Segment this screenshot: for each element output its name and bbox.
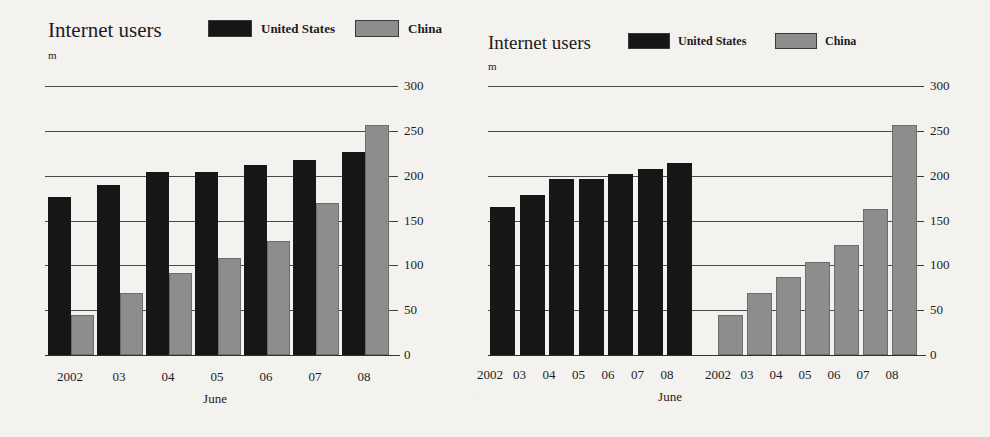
axis-baseline-split [488, 355, 926, 356]
legend-item-china-split: China [775, 33, 856, 49]
figure-page: Internet users m United States China [0, 0, 990, 437]
bar-us-07 [638, 169, 663, 356]
tick-mark-250 [392, 131, 398, 132]
gridline-300 [488, 86, 918, 87]
tick-mark-250 [918, 131, 924, 132]
dark-swatch-icon [208, 20, 252, 37]
bar-china-06 [267, 241, 290, 355]
bar-china-04 [776, 277, 801, 355]
bar-china-03 [120, 293, 143, 355]
bar-us-03 [520, 195, 545, 355]
tick-mark-300 [918, 86, 924, 87]
cat-label-04: 04 [142, 369, 194, 385]
tick-label-100: 100 [404, 258, 424, 271]
gridline-200 [45, 176, 392, 177]
chart-title-grouped: Internet users [48, 18, 162, 43]
bar-china-06 [834, 245, 859, 355]
bar-china-05 [805, 262, 830, 355]
bar-china-07 [863, 209, 888, 355]
tick-mark-200 [918, 176, 924, 177]
bar-china-04 [169, 273, 192, 356]
bar-us-06 [244, 165, 267, 355]
cat-label-us-08: 08 [641, 367, 693, 383]
tick-mark-100 [918, 265, 924, 266]
bar-us-2002 [490, 207, 515, 355]
bar-china-08 [892, 125, 917, 355]
cat-label-03: 03 [93, 369, 145, 385]
cat-label-china-08: 08 [866, 367, 918, 383]
bar-us-08 [342, 152, 365, 355]
tick-label-150: 150 [930, 214, 950, 227]
tick-label-0: 0 [404, 348, 411, 361]
cat-label-06: 06 [240, 369, 292, 385]
tick-label-100: 100 [930, 258, 950, 271]
tick-label-250: 250 [930, 124, 950, 137]
cat-label-05: 05 [191, 369, 243, 385]
axis-caption-june-grouped: June [150, 391, 280, 407]
tick-mark-100 [392, 265, 398, 266]
bar-us-04 [549, 179, 574, 355]
bar-us-2002 [48, 197, 71, 355]
bar-china-2002 [718, 315, 743, 355]
bar-us-04 [146, 172, 169, 355]
tick-mark-150 [918, 221, 924, 222]
bar-us-03 [97, 185, 120, 355]
chart-header-split: Internet users m United States China [470, 0, 990, 60]
plot-area-split [488, 86, 918, 355]
bar-us-07 [293, 160, 316, 355]
plot-area-grouped [45, 86, 392, 355]
bar-china-2002 [71, 315, 94, 355]
chart-panel-split: Internet users m United States China [470, 0, 990, 437]
chart-header-grouped: Internet users m United States China [0, 0, 470, 60]
bar-china-05 [218, 258, 241, 355]
tick-label-0: 0 [930, 348, 937, 361]
tick-mark-0 [392, 355, 398, 356]
legend-label-united-states: United States [678, 34, 746, 49]
cat-label-08: 08 [338, 369, 390, 385]
tick-mark-0 [918, 355, 924, 356]
tick-label-300: 300 [404, 79, 424, 92]
dark-swatch-icon [628, 33, 670, 49]
tick-label-200: 200 [930, 169, 950, 182]
legend-label-china: China [408, 21, 442, 37]
chart-unit-split: m [488, 60, 497, 72]
bar-china-08 [365, 125, 389, 355]
chart-panel-grouped: Internet users m United States China [0, 0, 470, 437]
tick-mark-50 [918, 310, 924, 311]
gridline-300 [45, 86, 392, 87]
axis-caption-june-split: June [605, 389, 735, 405]
legend-item-united-states-grouped: United States [208, 20, 335, 37]
tick-label-150: 150 [404, 214, 424, 227]
tick-mark-150 [392, 221, 398, 222]
bar-us-05 [195, 172, 218, 355]
tick-mark-50 [392, 310, 398, 311]
gridline-250 [45, 131, 392, 132]
gridline-250 [488, 131, 918, 132]
gray-swatch-icon [355, 20, 399, 37]
tick-label-250: 250 [404, 124, 424, 137]
legend-item-china-grouped: China [355, 20, 442, 37]
bar-us-06 [608, 174, 633, 355]
bar-us-05 [579, 179, 604, 355]
tick-mark-300 [392, 86, 398, 87]
chart-title-split: Internet users [488, 32, 591, 54]
tick-label-50: 50 [404, 303, 417, 316]
gray-swatch-icon [775, 33, 817, 49]
legend-item-united-states-split: United States [628, 33, 746, 49]
chart-unit-grouped: m [48, 49, 57, 61]
legend-label-united-states: United States [261, 21, 335, 37]
tick-label-300: 300 [930, 79, 950, 92]
tick-label-200: 200 [404, 169, 424, 182]
gridline-200 [488, 176, 918, 177]
legend-label-china: China [825, 34, 856, 49]
cat-label-07: 07 [289, 369, 341, 385]
axis-baseline-grouped [45, 355, 400, 356]
bar-china-07 [316, 203, 339, 355]
tick-label-50: 50 [930, 303, 943, 316]
bar-china-03 [747, 293, 772, 355]
tick-mark-200 [392, 176, 398, 177]
bar-us-08 [667, 163, 692, 355]
cat-label-2002: 2002 [44, 369, 96, 385]
